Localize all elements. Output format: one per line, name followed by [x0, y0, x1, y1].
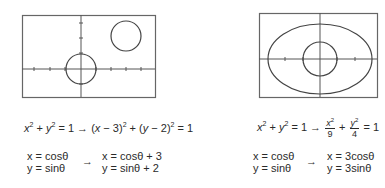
- tick-marks-left: [34, 23, 141, 84]
- param-line: y = sinθ: [253, 162, 294, 174]
- graph-frame-right: [260, 14, 378, 98]
- parametric-original-left: x = cosθ y = sinθ: [27, 150, 68, 174]
- translation-equation: x2 + y2 = 1 → (x − 3)2 + (y − 2)2 = 1: [24, 122, 193, 135]
- translated-circle: [111, 21, 141, 51]
- parametric-transformed-left: x = cosθ + 3 y = sinθ + 2: [102, 150, 162, 174]
- param-line: x = cosθ: [27, 150, 68, 162]
- param-arrow-right: →: [306, 155, 317, 167]
- scaling-equation: x2 + y2 = 1 → x29 + y24 = 1: [257, 118, 379, 139]
- param-arrow-left: →: [82, 155, 93, 167]
- param-line: x = 3cosθ: [327, 150, 374, 162]
- param-line: y = sinθ + 2: [102, 162, 162, 174]
- param-line: y = 3sinθ: [327, 162, 374, 174]
- parametric-transformed-right: x = 3cosθ y = 3sinθ: [327, 150, 374, 174]
- parametric-original-right: x = cosθ y = sinθ: [253, 150, 294, 174]
- param-line: x = cosθ: [253, 150, 294, 162]
- param-line: x = cosθ + 3: [102, 150, 162, 162]
- fraction-x: x29: [325, 118, 335, 139]
- param-line: y = sinθ: [27, 162, 68, 174]
- fraction-y: y24: [350, 118, 360, 139]
